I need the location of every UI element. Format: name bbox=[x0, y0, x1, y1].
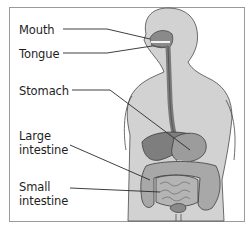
label-small-intestine: Small intestine bbox=[19, 180, 68, 208]
bladder bbox=[170, 204, 186, 213]
label-tongue: Tongue bbox=[19, 47, 59, 61]
label-large-intestine: Large intestine bbox=[19, 129, 68, 157]
label-stomach: Stomach bbox=[19, 84, 69, 98]
label-small-intestine-line1: Small bbox=[19, 180, 68, 194]
label-small-intestine-line2: intestine bbox=[19, 194, 68, 208]
label-mouth: Mouth bbox=[19, 23, 55, 37]
label-large-intestine-line1: Large bbox=[19, 129, 68, 143]
leader-line-mouth bbox=[63, 29, 150, 39]
label-large-intestine-line2: intestine bbox=[19, 143, 68, 157]
leader-line-tongue bbox=[63, 46, 152, 53]
small-intestine bbox=[156, 175, 198, 206]
